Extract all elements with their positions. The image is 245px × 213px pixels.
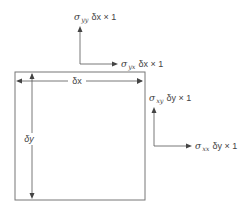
stress-element-diagram: δx δy σyyδx × 1 σyxδx × 1 σxyδy × 1 σxxδ…	[0, 0, 245, 213]
sigma-yx-label: σyxδx × 1	[121, 59, 163, 71]
arrowhead-up-icon	[152, 107, 157, 113]
right-force-arrows	[152, 107, 193, 149]
arrowhead-up-icon	[30, 73, 35, 79]
arrowhead-up-icon	[78, 26, 83, 32]
sigma-xy-label: σxyδy × 1	[149, 93, 191, 105]
arrowhead-down-icon	[30, 193, 35, 199]
dy-label: δy	[24, 134, 34, 144]
arrowhead-right-icon	[186, 144, 192, 149]
top-force-arrows	[78, 26, 119, 67]
sigma-xx-label: σxxδy × 1	[195, 141, 237, 153]
sigma-yy-label: σyyδx × 1	[74, 12, 116, 24]
arrowhead-right-icon	[112, 62, 118, 67]
dx-label: δx	[72, 76, 82, 86]
arrowhead-left-icon	[16, 79, 22, 84]
